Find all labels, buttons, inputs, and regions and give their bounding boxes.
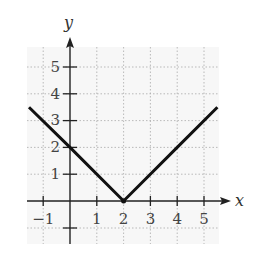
y-tick-label: 5 <box>50 58 60 76</box>
x-axis-label: x <box>235 191 244 210</box>
vertex-point <box>121 199 126 204</box>
x-tick-label: 5 <box>199 210 209 228</box>
x-tick-label: 3 <box>146 210 156 228</box>
x-tick-label: 2 <box>119 210 129 228</box>
y-tick-label: 2 <box>50 138 60 156</box>
y-tick-label: 3 <box>50 111 60 129</box>
absolute-value-graph: x y −1 1 2 3 4 5 1 2 3 4 5 <box>0 0 253 257</box>
y-axis-label: y <box>63 13 74 32</box>
y-tick-label: 4 <box>50 85 60 103</box>
x-tick-label: 4 <box>172 210 182 228</box>
x-tick-label: 1 <box>92 210 102 228</box>
x-tick-label: −1 <box>32 210 54 228</box>
y-tick-label: 1 <box>50 165 60 183</box>
